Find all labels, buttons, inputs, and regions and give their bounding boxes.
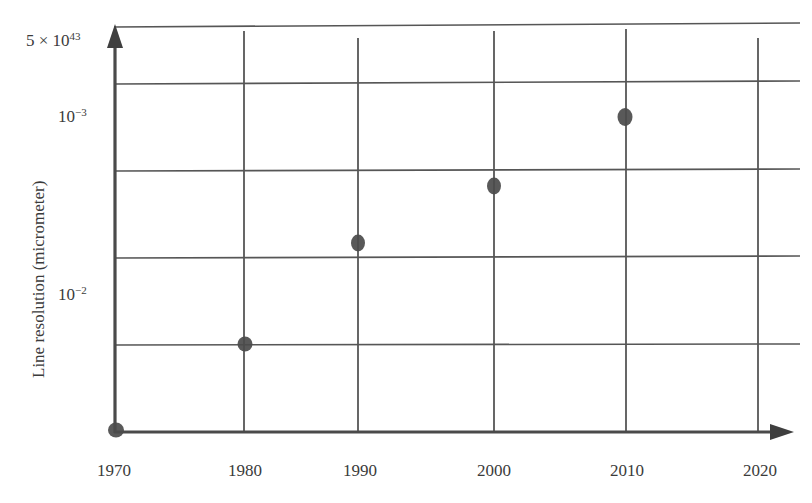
x-tick-label-1970: 1970: [97, 461, 131, 480]
data-point-1980: [238, 337, 253, 352]
data-point-1990: [351, 235, 365, 252]
data-point-2010: [618, 108, 633, 126]
line-resolution-scatter-chart: 5 × 1043 10−3 10−2 Line resolution (micr…: [0, 0, 812, 503]
y-axis-title: Line resolution (micrometer): [29, 181, 48, 378]
x-tick-label-2010: 2010: [610, 461, 644, 480]
chart-container: 5 × 1043 10−3 10−2 Line resolution (micr…: [0, 0, 812, 503]
x-tick-label-1980: 1980: [228, 461, 262, 480]
x-tick-label-2020: 2020: [743, 461, 777, 480]
x-tick-label-1990: 1990: [343, 461, 377, 480]
gridline-horizontal-5: [114, 344, 800, 345]
data-point-1970: [108, 423, 124, 438]
x-tick-label-2000: 2000: [477, 461, 511, 480]
data-point-2000: [487, 178, 501, 195]
